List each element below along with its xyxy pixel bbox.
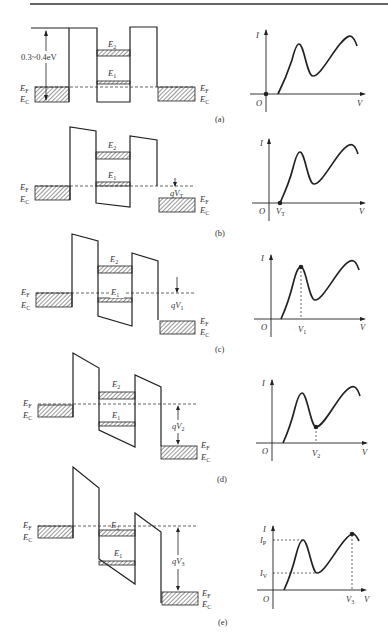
panel-d-e2-label: E2 xyxy=(111,379,120,390)
panel-b-v-axis: V xyxy=(359,206,366,216)
panel-e-v3-tick: V3 xyxy=(346,594,354,605)
panel-e-i-axis: I xyxy=(262,524,267,534)
panel-e-ec-right: EC xyxy=(201,599,211,610)
panel-e-ec-left: EC xyxy=(22,532,32,543)
panel-d-caption: (d) xyxy=(217,474,227,484)
panel-e-e1-label: E1 xyxy=(113,548,122,559)
panel-c-ef-right: EF xyxy=(199,316,209,327)
panel-c-ec-left: EC xyxy=(20,300,30,311)
panel-e-e2-label: E2 xyxy=(110,520,119,531)
panel-a-iv-curve xyxy=(250,29,366,112)
panel-c-v-axis: V xyxy=(360,322,367,332)
panel-c-band-diagram xyxy=(36,234,195,334)
panel-a-e1-label: E1 xyxy=(107,68,116,79)
panel-b-band-diagram xyxy=(35,127,195,212)
panel-c-e2-label: E2 xyxy=(109,254,118,265)
panel-d-v-axis: V xyxy=(362,447,369,457)
panel-a-ec-right: EC xyxy=(199,94,209,105)
panel-a-v-axis: V xyxy=(357,98,364,108)
panel-c-i-axis: I xyxy=(260,253,265,263)
panel-a-caption: (a) xyxy=(215,114,225,124)
panel-b-ec-right: EC xyxy=(199,205,209,216)
panel-e-ip-label: IP xyxy=(259,535,267,546)
panel-e-ef-right: EF xyxy=(201,588,211,599)
panel-b-iv-curve xyxy=(252,138,366,221)
panel-b-caption: (b) xyxy=(215,228,225,238)
panel-a-ef-right: EF xyxy=(199,83,209,94)
panel-a-i-axis: I xyxy=(255,30,260,40)
panel-d-ef-left: EF xyxy=(22,398,32,409)
panel-c-ec-right: EC xyxy=(199,327,209,338)
panel-e-iv-label: IV xyxy=(259,568,268,579)
panel-e-ef-left: EF xyxy=(22,520,32,531)
panel-e-band-diagram xyxy=(38,467,198,605)
panel-c-ef-left: EF xyxy=(20,287,30,298)
panel-a-origin: O xyxy=(256,98,262,108)
panel-e-caption: (e) xyxy=(218,617,228,627)
panel-e-origin: O xyxy=(263,594,269,604)
panel-a-e2-label: E2 xyxy=(107,39,116,50)
panel-b-origin: O xyxy=(259,206,265,216)
panel-c-v1-tick: V1 xyxy=(298,324,306,335)
panel-d-v2-tick: V2 xyxy=(312,448,320,459)
panel-d-e1-label: E1 xyxy=(111,410,120,421)
panel-d-i-axis: I xyxy=(261,378,266,388)
rtd-band-diagram-figure: 0.3~0.4eV E2 E1 EF EC EF EC I O V (a) E2… xyxy=(0,0,388,641)
panel-d-ec-right: EC xyxy=(200,452,210,463)
panel-a-ef-left: EF xyxy=(19,83,29,94)
panel-b-ef-right: EF xyxy=(199,194,209,205)
energy-gap-label: 0.3~0.4eV xyxy=(21,52,58,62)
panel-d-ec-left: EC xyxy=(22,410,32,421)
panel-b-ef-left: EF xyxy=(19,182,29,193)
panel-b-ec-left: EC xyxy=(19,194,29,205)
panel-b-e1-label: E1 xyxy=(107,170,116,181)
panel-e-v-axis: V xyxy=(364,594,371,604)
panel-b-vt-tick: VT xyxy=(276,206,285,217)
panel-b-e2-label: E2 xyxy=(107,140,116,151)
panel-c-origin: O xyxy=(261,322,267,332)
panel-d-origin: O xyxy=(262,446,268,456)
panel-c-iv-curve xyxy=(254,254,366,337)
panel-b-bias-label: qVT xyxy=(170,188,183,199)
panel-c-caption: (c) xyxy=(215,344,225,354)
panel-a-ec-left: EC xyxy=(19,94,29,105)
panel-b-i-axis: I xyxy=(259,138,264,148)
panel-c-bias-label: qV1 xyxy=(171,300,183,311)
panel-d-band-diagram xyxy=(38,353,197,459)
panel-d-ef-right: EF xyxy=(200,440,210,451)
